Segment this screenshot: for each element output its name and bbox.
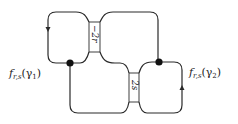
strand-top-right: [100, 12, 158, 62]
arrow-down-icon: [46, 27, 51, 32]
diagram-canvas: −2r 2s fr,s(γ1) fr,s(γ2): [0, 0, 238, 124]
vertex-right: [155, 58, 162, 65]
vertex-left: [66, 59, 73, 66]
box-bottom-label: 2s: [130, 79, 140, 91]
arrow-up-icon: [180, 85, 185, 90]
strand-top-left: [48, 12, 89, 63]
box-top-label: −2r: [90, 25, 100, 43]
strand-middle: [100, 52, 129, 73]
box-top: −2r: [89, 22, 100, 52]
box-bottom: 2s: [129, 73, 140, 102]
label-right: fr,s(γ2): [188, 66, 221, 80]
label-left: fr,s(γ1): [8, 67, 41, 81]
strand-bottom-right: [139, 62, 182, 113]
strand-bottom-left: [70, 63, 129, 113]
